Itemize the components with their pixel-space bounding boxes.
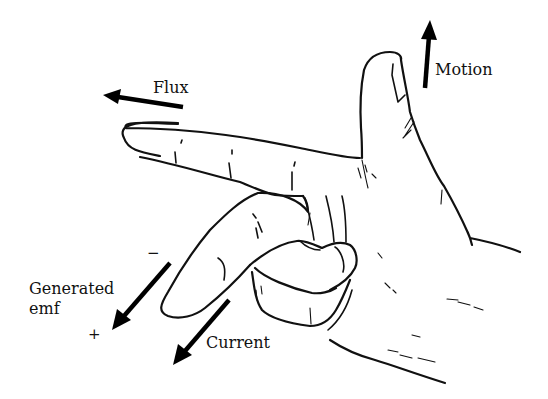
emf-plus-sign: + xyxy=(88,325,101,343)
current-label: Current xyxy=(206,334,270,352)
middle-finger xyxy=(161,193,308,318)
flux-label: Flux xyxy=(153,79,189,97)
index-finger xyxy=(123,122,360,196)
emf-minus-sign: − xyxy=(147,244,160,262)
hand-rule-diagram: Flux Motion Generated emf − + Current xyxy=(0,0,548,399)
motion-label: Motion xyxy=(435,61,493,79)
generated-emf-label-line2: emf xyxy=(29,300,60,318)
thumb xyxy=(358,52,520,252)
curled-fingers xyxy=(250,196,357,330)
generated-emf-label-line1: Generated xyxy=(29,280,114,298)
emf-arrow xyxy=(112,263,170,330)
